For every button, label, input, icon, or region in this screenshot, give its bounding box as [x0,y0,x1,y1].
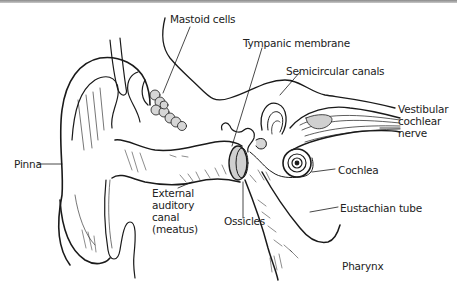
label-pharynx: Pharynx [342,260,383,272]
label-mastoid-cells: Mastoid cells [170,13,235,25]
cochlea-shape [283,149,311,177]
ear-canal-lower [112,175,240,185]
skull-outline [163,18,395,108]
label-ossicles: Ossicles [224,215,265,227]
ear-canal-upper [115,140,242,151]
leader-lines [38,27,400,218]
label-pinna: Pinna [14,158,42,170]
pinna-outline [59,57,150,265]
label-external-auditory-canal: External auditory canal (meatus) [152,187,198,235]
mastoid-cells-shape [150,90,187,131]
ear-anatomy-illustration [0,0,457,285]
label-eustachian-tube: Eustachian tube [340,202,422,214]
label-vestibular-cochlear-nerve: Vestibular cochlear nerve [398,103,448,139]
label-cochlea: Cochlea [338,164,379,176]
ear-lobe [60,200,110,264]
label-semicircular-canals: Semicircular canals [286,65,384,77]
label-tympanic-membrane: Tympanic membrane [243,37,350,49]
